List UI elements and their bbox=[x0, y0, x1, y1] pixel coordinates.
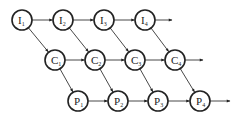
node-circle bbox=[53, 10, 73, 30]
node-I4: I4 bbox=[135, 10, 155, 30]
edge-I1-C1-arrow bbox=[28, 28, 48, 52]
node-P1: P1 bbox=[68, 91, 88, 111]
edge-C3-P3-arrow bbox=[140, 69, 153, 92]
edge-C2-P2-arrow bbox=[100, 69, 113, 92]
node-C1: C1 bbox=[45, 50, 65, 70]
nodes-layer: I1I2I3I4C1C2C3C4P1P2P3P4 bbox=[12, 10, 210, 111]
edge-I4-C4-arrow bbox=[151, 28, 169, 52]
node-P3: P3 bbox=[148, 91, 168, 111]
pipeline-diagram: I1I2I3I4C1C2C3C4P1P2P3P4 bbox=[0, 0, 247, 121]
node-I2: I2 bbox=[53, 10, 73, 30]
node-circle bbox=[94, 10, 114, 30]
node-I1: I1 bbox=[12, 10, 32, 30]
edge-C4-P4-arrow bbox=[180, 69, 194, 92]
edge-I2-C2-arrow bbox=[69, 28, 88, 52]
node-P2: P2 bbox=[108, 91, 128, 111]
node-C3: C3 bbox=[125, 50, 145, 70]
edge-I3-C3-arrow bbox=[110, 28, 128, 52]
edge-C1-P1-arrow bbox=[60, 69, 73, 92]
node-P4: P4 bbox=[190, 91, 210, 111]
node-C4: C4 bbox=[165, 50, 185, 70]
node-C2: C2 bbox=[85, 50, 105, 70]
node-I3: I3 bbox=[94, 10, 114, 30]
node-circle bbox=[135, 10, 155, 30]
node-circle bbox=[12, 10, 32, 30]
